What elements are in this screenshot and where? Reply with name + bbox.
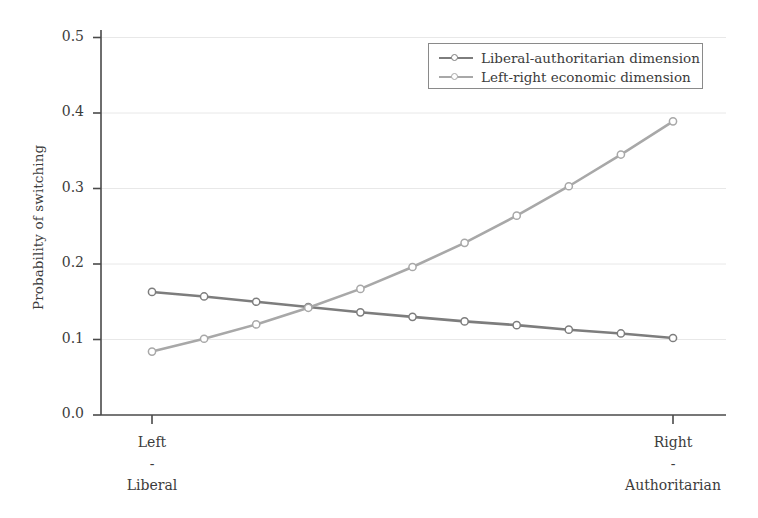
legend-marker-icon bbox=[439, 70, 473, 84]
data-point-marker bbox=[148, 288, 155, 295]
y-tick-label: 0.3 bbox=[44, 179, 84, 195]
x-tick-label-line: Right bbox=[573, 432, 758, 454]
data-point-marker bbox=[565, 183, 572, 190]
data-point-marker bbox=[513, 212, 520, 219]
data-point-marker bbox=[253, 298, 260, 305]
data-point-marker bbox=[617, 151, 624, 158]
chart-figure: Probability of switching 0.00.10.20.30.4… bbox=[0, 0, 758, 518]
data-point-marker bbox=[617, 330, 624, 337]
data-point-marker bbox=[409, 263, 416, 270]
y-axis-title: Probability of switching bbox=[30, 145, 46, 310]
data-point-marker bbox=[357, 309, 364, 316]
data-point-marker bbox=[669, 118, 676, 125]
y-tick-label: 0.2 bbox=[44, 254, 84, 270]
data-point-marker bbox=[461, 318, 468, 325]
legend-item-label: Liberal-authoritarian dimension bbox=[481, 50, 700, 66]
data-point-marker bbox=[305, 304, 312, 311]
x-tick-label: Right-Authoritarian bbox=[573, 432, 758, 497]
legend-item: Liberal-authoritarian dimension bbox=[439, 49, 702, 67]
legend-item-label: Left-right economic dimension bbox=[481, 69, 691, 85]
chart-legend: Liberal-authoritarian dimension Left-rig… bbox=[428, 43, 703, 89]
data-point-marker bbox=[669, 334, 676, 341]
data-point-marker bbox=[201, 335, 208, 342]
y-tick-label: 0.5 bbox=[44, 28, 84, 44]
x-tick-label-line: - bbox=[573, 454, 758, 476]
x-tick-label-line: Left bbox=[52, 432, 252, 454]
y-tick-marks bbox=[93, 38, 101, 416]
series-layer bbox=[148, 118, 676, 355]
data-point-marker bbox=[565, 326, 572, 333]
x-tick-label-line: - bbox=[52, 454, 252, 476]
data-point-marker bbox=[201, 293, 208, 300]
data-point-marker bbox=[357, 285, 364, 292]
data-point-marker bbox=[513, 322, 520, 329]
x-tick-marks bbox=[152, 415, 673, 424]
data-point-marker bbox=[409, 313, 416, 320]
legend-marker-icon bbox=[439, 51, 473, 65]
y-tick-label: 0.4 bbox=[44, 103, 84, 119]
x-tick-label-line: Liberal bbox=[52, 475, 252, 497]
x-tick-label-line: Authoritarian bbox=[573, 475, 758, 497]
data-point-marker bbox=[253, 321, 260, 328]
legend-item: Left-right economic dimension bbox=[439, 68, 702, 86]
x-tick-label: Left-Liberal bbox=[52, 432, 252, 497]
y-tick-label: 0.0 bbox=[44, 405, 84, 421]
data-point-marker bbox=[148, 348, 155, 355]
data-point-marker bbox=[461, 239, 468, 246]
y-tick-label: 0.1 bbox=[44, 330, 84, 346]
